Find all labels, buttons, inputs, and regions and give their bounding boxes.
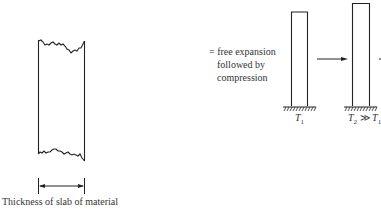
thickness-dimension-arrow xyxy=(39,178,85,194)
diagram-canvas xyxy=(0,0,381,209)
description-line-2: followed by xyxy=(217,59,265,71)
description-line-3: compression xyxy=(217,72,268,84)
slab-of-material xyxy=(39,40,85,161)
description-line-1: = free expansion xyxy=(209,46,276,58)
transition-arrow xyxy=(317,57,348,61)
column-1-ground-hatch xyxy=(284,107,316,111)
column-1 xyxy=(283,12,316,107)
slab-top-break-line xyxy=(39,40,85,53)
slab-bottom-break-line xyxy=(39,149,85,161)
column-2-ground-hatch xyxy=(345,107,377,111)
column-2-temperature-label: T2 ≫ T1 xyxy=(348,112,381,126)
column-2 xyxy=(344,4,377,108)
column-1-temperature-label: T1 xyxy=(295,112,304,126)
slab-caption: Thickness of slab of material xyxy=(2,196,118,208)
